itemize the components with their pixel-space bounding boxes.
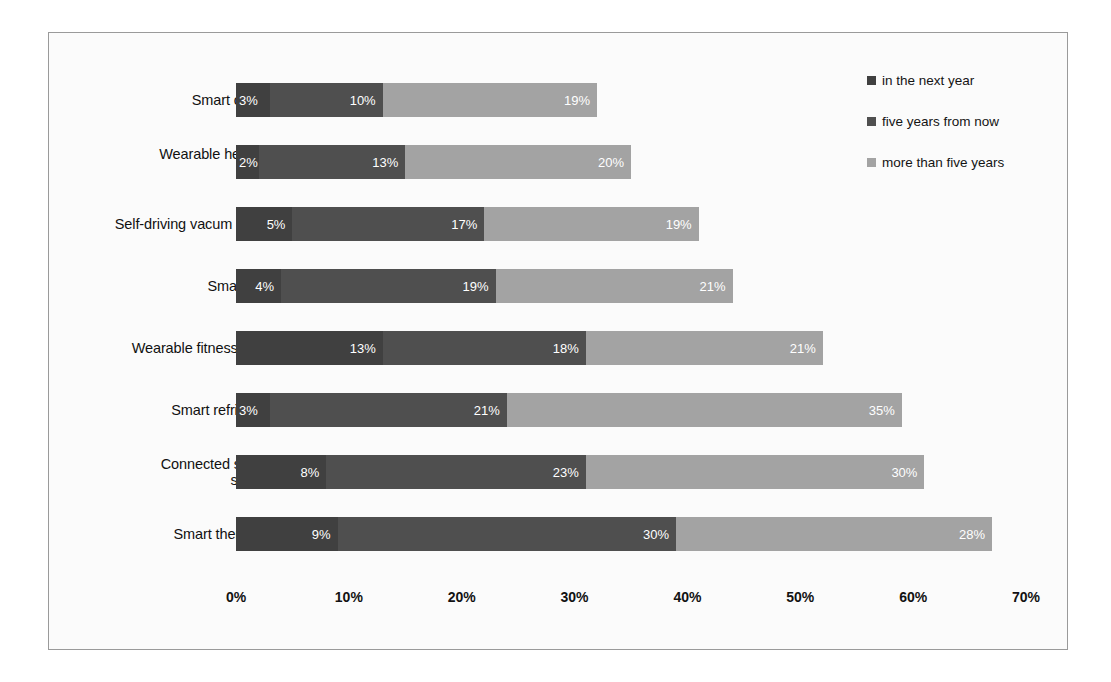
segment-value-label: 35% bbox=[869, 403, 902, 418]
segment-value-label: 18% bbox=[553, 341, 586, 356]
bar-row: Smartwatch4%19%21% bbox=[49, 269, 1067, 303]
stacked-bar[interactable]: 2%13%20% bbox=[236, 145, 631, 179]
bar-segment[interactable]: 19% bbox=[281, 269, 495, 303]
bar-row: Smart refrigerator3%21%35% bbox=[49, 393, 1067, 427]
stacked-bar[interactable]: 13%18%21% bbox=[236, 331, 823, 365]
legend-label: more than five years bbox=[882, 155, 1004, 170]
bar-segment[interactable]: 20% bbox=[405, 145, 631, 179]
chart-frame: Smart clothing3%10%19%Wearable heads up … bbox=[48, 32, 1068, 650]
legend-label: in the next year bbox=[882, 73, 974, 88]
segment-value-label: 3% bbox=[237, 93, 258, 108]
segment-value-label: 21% bbox=[700, 279, 733, 294]
x-axis: 0%10%20%30%40%50%60%70% bbox=[236, 589, 1067, 613]
bar-segment[interactable]: 28% bbox=[676, 517, 992, 551]
segment-value-label: 9% bbox=[312, 527, 338, 542]
bar-segment[interactable]: 17% bbox=[292, 207, 484, 241]
segment-value-label: 30% bbox=[643, 527, 676, 542]
x-axis-tick-label: 40% bbox=[673, 589, 701, 605]
legend-item[interactable]: in the next year bbox=[867, 73, 1057, 88]
x-axis-tick-label: 50% bbox=[786, 589, 814, 605]
segment-value-label: 28% bbox=[959, 527, 992, 542]
bar-segment[interactable]: 2% bbox=[236, 145, 259, 179]
stacked-bar[interactable]: 3%21%35% bbox=[236, 393, 902, 427]
segment-value-label: 5% bbox=[267, 217, 293, 232]
legend-item[interactable]: five years from now bbox=[867, 114, 1057, 129]
bar-row: Connected security systems8%23%30% bbox=[49, 455, 1067, 489]
bar-segment[interactable]: 4% bbox=[236, 269, 281, 303]
x-axis-tick-label: 70% bbox=[1012, 589, 1040, 605]
bar-segment[interactable]: 10% bbox=[270, 83, 383, 117]
x-axis-tick-label: 10% bbox=[335, 589, 363, 605]
bar-segment[interactable]: 21% bbox=[496, 269, 733, 303]
bar-segment[interactable]: 3% bbox=[236, 83, 270, 117]
bar-segment[interactable]: 9% bbox=[236, 517, 338, 551]
segment-value-label: 2% bbox=[237, 155, 258, 170]
segment-value-label: 3% bbox=[237, 403, 258, 418]
segment-value-label: 21% bbox=[474, 403, 507, 418]
segment-value-label: 23% bbox=[553, 465, 586, 480]
bar-segment[interactable]: 3% bbox=[236, 393, 270, 427]
bar-segment[interactable]: 5% bbox=[236, 207, 292, 241]
segment-value-label: 13% bbox=[350, 341, 383, 356]
legend-label: five years from now bbox=[882, 114, 999, 129]
x-axis-tick-label: 0% bbox=[226, 589, 246, 605]
legend-swatch-icon bbox=[867, 76, 876, 85]
stacked-bar[interactable]: 5%17%19% bbox=[236, 207, 699, 241]
bar-segment[interactable]: 19% bbox=[484, 207, 698, 241]
segment-value-label: 19% bbox=[564, 93, 597, 108]
legend-item[interactable]: more than five years bbox=[867, 155, 1057, 170]
bar-segment[interactable]: 30% bbox=[586, 455, 925, 489]
bar-row: Smart thermostat9%30%28% bbox=[49, 517, 1067, 551]
bar-segment[interactable]: 13% bbox=[236, 331, 383, 365]
bar-row: Wearable fitness device13%18%21% bbox=[49, 331, 1067, 365]
stacked-bar[interactable]: 4%19%21% bbox=[236, 269, 733, 303]
segment-value-label: 20% bbox=[598, 155, 631, 170]
segment-value-label: 10% bbox=[350, 93, 383, 108]
segment-value-label: 21% bbox=[790, 341, 823, 356]
bar-segment[interactable]: 18% bbox=[383, 331, 586, 365]
bar-segment[interactable]: 21% bbox=[586, 331, 823, 365]
segment-value-label: 8% bbox=[300, 465, 326, 480]
stacked-bar[interactable]: 3%10%19% bbox=[236, 83, 597, 117]
legend-swatch-icon bbox=[867, 117, 876, 126]
segment-value-label: 17% bbox=[451, 217, 484, 232]
stacked-bar[interactable]: 8%23%30% bbox=[236, 455, 924, 489]
legend: in the next yearfive years from nowmore … bbox=[867, 73, 1057, 196]
segment-value-label: 19% bbox=[463, 279, 496, 294]
bar-segment[interactable]: 21% bbox=[270, 393, 507, 427]
bar-segment[interactable]: 35% bbox=[507, 393, 902, 427]
bar-row: Self-driving vacum cleaner5%17%19% bbox=[49, 207, 1067, 241]
x-axis-tick-label: 30% bbox=[561, 589, 589, 605]
stacked-bar[interactable]: 9%30%28% bbox=[236, 517, 992, 551]
plot-area: Smart clothing3%10%19%Wearable heads up … bbox=[49, 33, 1067, 649]
segment-value-label: 30% bbox=[891, 465, 924, 480]
legend-swatch-icon bbox=[867, 158, 876, 167]
bar-segment[interactable]: 30% bbox=[338, 517, 677, 551]
bar-segment[interactable]: 23% bbox=[326, 455, 586, 489]
segment-value-label: 19% bbox=[666, 217, 699, 232]
segment-value-label: 4% bbox=[255, 279, 281, 294]
segment-value-label: 13% bbox=[372, 155, 405, 170]
bar-segment[interactable]: 13% bbox=[259, 145, 406, 179]
x-axis-tick-label: 60% bbox=[899, 589, 927, 605]
bar-segment[interactable]: 8% bbox=[236, 455, 326, 489]
bar-segment[interactable]: 19% bbox=[383, 83, 597, 117]
x-axis-tick-label: 20% bbox=[448, 589, 476, 605]
